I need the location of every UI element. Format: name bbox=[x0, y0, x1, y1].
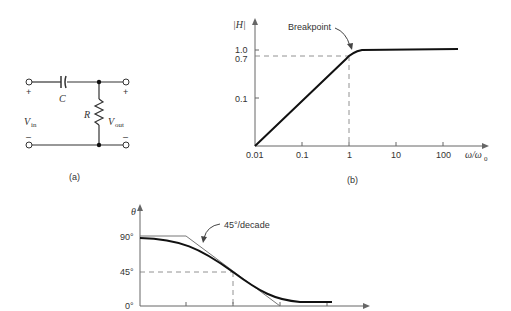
y-axis-arrow-icon bbox=[252, 18, 258, 25]
xtick-100: 100 bbox=[436, 150, 451, 160]
terminals bbox=[26, 79, 129, 148]
magnitude-xlabel: ω/ω bbox=[465, 149, 482, 160]
magnitude-xlabel-sub: 0 bbox=[484, 155, 488, 163]
vout-plus: + bbox=[123, 87, 128, 97]
phase-curve bbox=[140, 238, 332, 302]
vout-subscript: out bbox=[115, 121, 124, 129]
junction-dot bbox=[97, 143, 101, 147]
vin-plus: + bbox=[26, 87, 31, 97]
magnitude-curve bbox=[255, 49, 458, 146]
breakpoint-arrow-icon bbox=[335, 28, 350, 46]
vout-minus: – bbox=[123, 132, 128, 142]
ytick-0-7: 0.7 bbox=[235, 54, 248, 64]
phase-y-arrow-icon bbox=[137, 204, 143, 211]
caption-a: (a) bbox=[69, 172, 80, 182]
asymptote-line bbox=[140, 236, 280, 306]
phase-ylabel: θ bbox=[131, 206, 136, 217]
junction-dot bbox=[97, 80, 101, 84]
xtick-0-01: 0.01 bbox=[246, 150, 264, 160]
slope-arrow-icon bbox=[204, 224, 220, 238]
xtick-1: 1 bbox=[347, 150, 352, 160]
vin-minus: – bbox=[26, 132, 31, 142]
ptick-90: 90° bbox=[120, 232, 134, 242]
phase-x-arrow-icon bbox=[363, 303, 370, 309]
resistor-label: R bbox=[83, 109, 90, 120]
ptick-0: 0° bbox=[125, 301, 134, 311]
rc-circuit bbox=[29, 76, 126, 145]
magnitude-ylabel: |H| bbox=[233, 19, 246, 30]
resistor-icon bbox=[95, 99, 103, 125]
xtick-10: 10 bbox=[391, 150, 401, 160]
slope-annotation: 45°/decade bbox=[224, 220, 270, 230]
x-axis-arrow-icon bbox=[482, 143, 489, 149]
ptick-45: 45° bbox=[120, 267, 134, 277]
phase-guides bbox=[140, 272, 233, 306]
breakpoint-annotation: Breakpoint bbox=[288, 22, 332, 32]
vin-subscript: in bbox=[31, 121, 37, 129]
xtick-0-1: 0.1 bbox=[296, 150, 309, 160]
capacitor-label: C bbox=[59, 93, 66, 104]
magnitude-axes bbox=[255, 22, 485, 146]
caption-b: (b) bbox=[347, 175, 358, 185]
ytick-0-1: 0.1 bbox=[235, 94, 248, 104]
